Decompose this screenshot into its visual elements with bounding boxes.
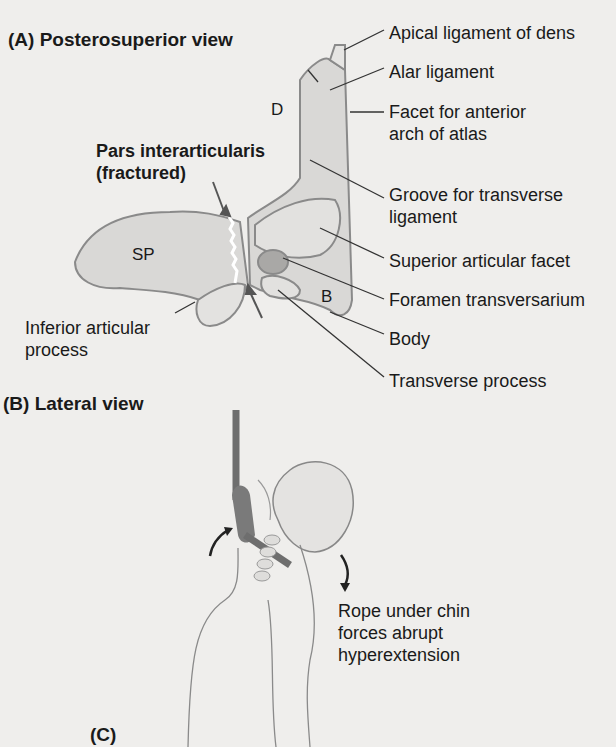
facet-anterior-arch-label: Facet for anterior arch of atlas	[389, 101, 526, 145]
spinous-process-letter: SP	[132, 245, 155, 265]
alar-ligament-label: Alar ligament	[389, 61, 494, 83]
body-letter: B	[321, 287, 332, 307]
pars-interarticularis-label: Pars interarticularis (fractured)	[96, 140, 265, 184]
foramen-transversarium-label: Foramen transversarium	[389, 289, 585, 311]
apical-ligament-label: Apical ligament of dens	[389, 22, 575, 44]
inferior-articular-process-label: Inferior articular process	[25, 317, 150, 361]
hanging-figure-drawing	[188, 410, 353, 747]
dens-letter: D	[271, 100, 283, 120]
panel-b-title: (B) Lateral view	[3, 393, 143, 415]
transverse-process-label: Transverse process	[389, 370, 546, 392]
panel-c-title: (C)	[90, 724, 116, 746]
hyperextension-caption: Rope under chin forces abrupt hyperexten…	[338, 600, 470, 666]
body-label: Body	[389, 328, 430, 350]
panel-a-title: (A) Posterosuperior view	[8, 29, 233, 51]
superior-articular-facet-label: Superior articular facet	[389, 250, 570, 272]
groove-transverse-ligament-label: Groove for transverse ligament	[389, 184, 563, 228]
